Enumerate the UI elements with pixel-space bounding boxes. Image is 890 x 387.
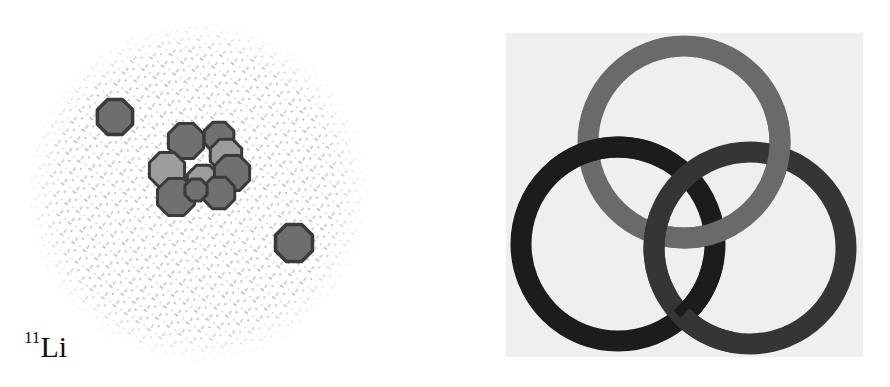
ring-top-overpass xyxy=(667,225,732,238)
halo-neutron xyxy=(276,225,313,262)
ring-right-overpass xyxy=(654,215,667,296)
li11-halo-panel: 11Li xyxy=(0,0,400,387)
isotope-label: 11Li xyxy=(24,332,67,362)
neutron-nucleon xyxy=(185,179,207,201)
ring-top-overpass xyxy=(771,109,780,182)
borromean-rings-panel xyxy=(506,33,863,357)
ring-left-overpass xyxy=(556,147,667,170)
mass-number: 11 xyxy=(24,328,40,347)
halo-nucleus-illustration xyxy=(0,0,400,387)
element-symbol: Li xyxy=(40,330,67,363)
halo-neutron xyxy=(97,99,132,134)
ring-right-overpass xyxy=(682,316,733,343)
ring-left-overpass xyxy=(680,261,713,319)
borromean-rings-illustration xyxy=(506,33,863,357)
